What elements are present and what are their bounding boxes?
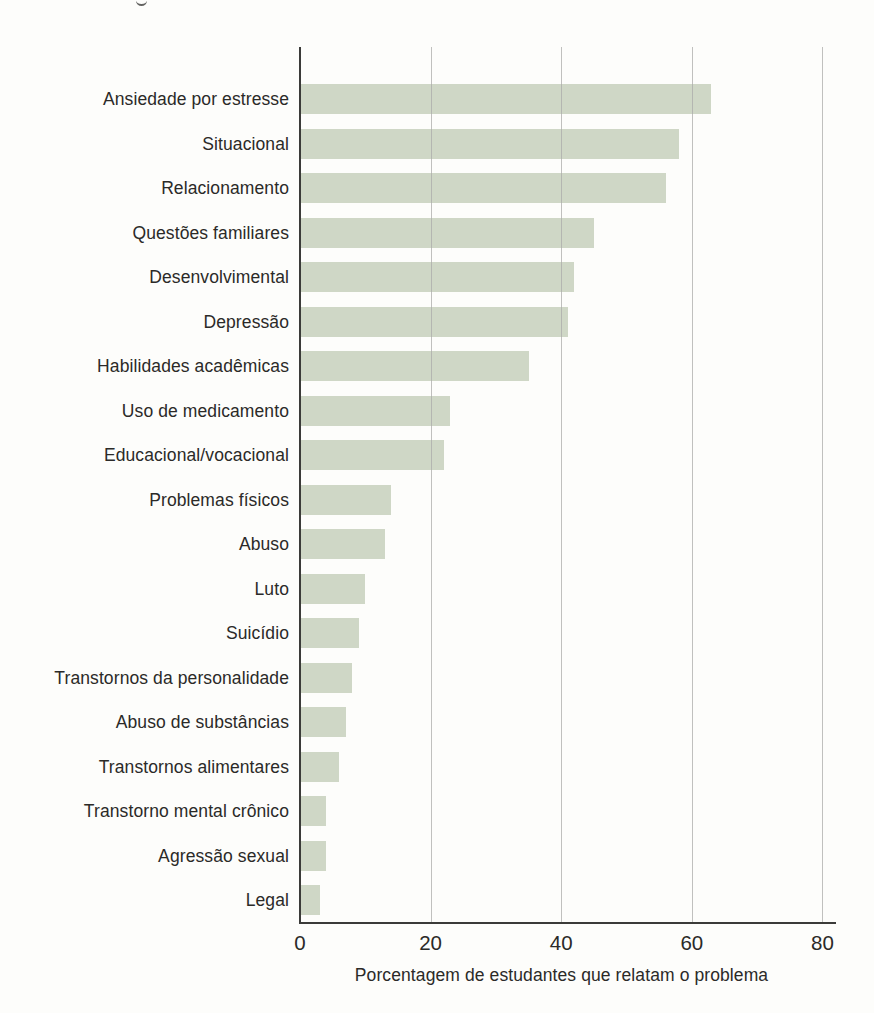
bar-row: Ansiedade por estresse (0, 84, 874, 114)
category-label: Abuso de substâncias (0, 707, 289, 737)
category-label: Transtorno mental crônico (0, 796, 289, 826)
bar (300, 752, 339, 782)
bar (300, 485, 391, 515)
category-label: Depressão (0, 307, 289, 337)
gridline-20 (431, 47, 432, 924)
bar-row: Uso de medicamento (0, 396, 874, 426)
bar (300, 618, 359, 648)
category-label: Questões familiares (0, 218, 289, 248)
bar-row: Legal (0, 885, 874, 915)
category-label: Situacional (0, 129, 289, 159)
x-axis-title: Porcentagem de estudantes que relatam o … (300, 965, 823, 986)
bar (300, 841, 326, 871)
x-axis-line (299, 922, 836, 924)
category-label: Luto (0, 574, 289, 604)
bar-row: Desenvolvimental (0, 262, 874, 292)
bar (300, 84, 711, 114)
bar-row: Suicídio (0, 618, 874, 648)
gridline-40 (561, 47, 562, 924)
bar-row: Agressão sexual (0, 841, 874, 871)
category-label: Educacional/vocacional (0, 440, 289, 470)
x-tick-label-0: 0 (270, 931, 330, 955)
category-label: Problemas físicos (0, 485, 289, 515)
category-label: Agressão sexual (0, 841, 289, 871)
category-label: Legal (0, 885, 289, 915)
bar-row: Transtornos da personalidade (0, 663, 874, 693)
category-label: Abuso (0, 529, 289, 559)
category-label: Transtornos alimentares (0, 752, 289, 782)
bar-row: Problemas físicos (0, 485, 874, 515)
bar (300, 173, 666, 203)
x-tick-label-20: 20 (401, 931, 461, 955)
bar (300, 529, 385, 559)
category-label: Relacionamento (0, 173, 289, 203)
bar-row: Transtornos alimentares (0, 752, 874, 782)
bar-row: Transtorno mental crônico (0, 796, 874, 826)
category-label: Uso de medicamento (0, 396, 289, 426)
bar-row: Habilidades acadêmicas (0, 351, 874, 381)
bar (300, 663, 352, 693)
category-label: Suicídio (0, 618, 289, 648)
bar (300, 351, 529, 381)
bar-row: Situacional (0, 129, 874, 159)
bar-row: Relacionamento (0, 173, 874, 203)
scanned-page: Ansiedade por estresseSituacionalRelacio… (0, 0, 874, 1013)
bar (300, 396, 450, 426)
bar-row: Abuso (0, 529, 874, 559)
bar-chart: Ansiedade por estresseSituacionalRelacio… (0, 0, 874, 1013)
x-tick-label-60: 60 (662, 931, 722, 955)
x-tick-label-80: 80 (792, 931, 852, 955)
bar (300, 262, 574, 292)
x-tick-label-40: 40 (531, 931, 591, 955)
category-label: Desenvolvimental (0, 262, 289, 292)
bar-row: Questões familiares (0, 218, 874, 248)
category-label: Habilidades acadêmicas (0, 351, 289, 381)
bar (300, 574, 365, 604)
bar (300, 796, 326, 826)
bar (300, 307, 568, 337)
bar-row: Luto (0, 574, 874, 604)
gridline-80 (822, 47, 823, 924)
category-label: Transtornos da personalidade (0, 663, 289, 693)
bar (300, 218, 594, 248)
bar-row: Abuso de substâncias (0, 707, 874, 737)
bar-row: Depressão (0, 307, 874, 337)
bar (300, 129, 679, 159)
y-axis-line (299, 47, 301, 924)
bar (300, 707, 346, 737)
bar (300, 440, 444, 470)
bar-row: Educacional/vocacional (0, 440, 874, 470)
gridline-60 (692, 47, 693, 924)
category-label: Ansiedade por estresse (0, 84, 289, 114)
bar (300, 885, 320, 915)
